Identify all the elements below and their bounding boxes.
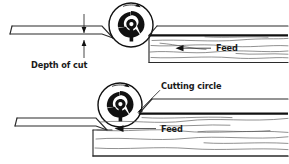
bottom-diagram: Cutting circle — [15, 81, 288, 156]
top-infeed-table — [10, 26, 118, 38]
diagram-canvas: Depth of cut — [0, 0, 289, 164]
dimension-arrow-icon — [82, 40, 87, 46]
dimension-arrow-icon — [82, 27, 87, 33]
feed-label-bottom: Feed — [161, 124, 183, 134]
top-cutterhead — [109, 3, 153, 47]
feed-label-top: Feed — [216, 43, 238, 53]
depth-of-cut-label: Depth of cut — [31, 60, 87, 70]
top-outfeed-stock: Feed — [149, 26, 288, 63]
technical-diagram-figure: Depth of cut — [0, 0, 289, 164]
cutting-circle-label: Cutting circle — [161, 81, 222, 91]
cutterhead-bore — [129, 22, 133, 26]
top-diagram: Depth of cut — [10, 3, 288, 70]
cutterhead-bore — [118, 102, 122, 106]
cutting-circle-callout: Cutting circle — [137, 81, 222, 113]
bottom-infeed-table — [15, 118, 288, 156]
bottom-cutterhead — [98, 83, 142, 127]
